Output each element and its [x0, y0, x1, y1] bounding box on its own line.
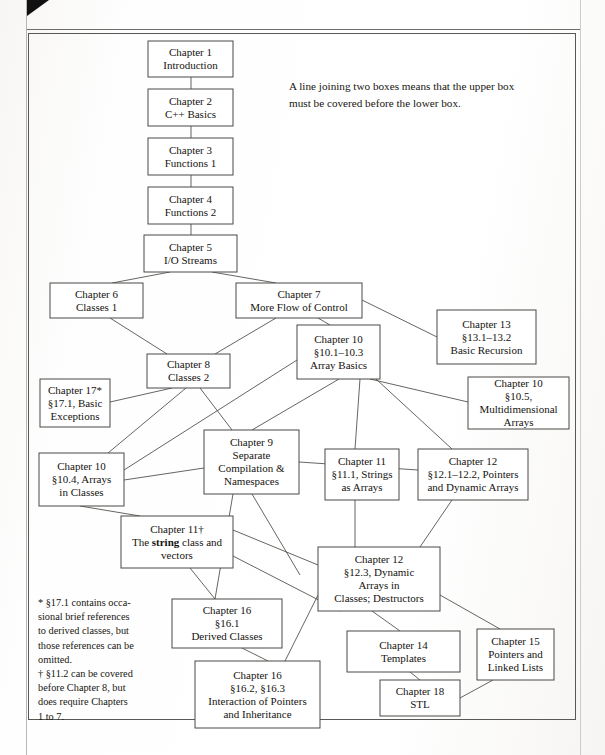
diagram-caption: A line joining two boxes means that the … — [289, 78, 537, 112]
dependency-edge — [124, 468, 204, 480]
dependency-edge — [252, 379, 339, 430]
chapter-box-label: Chapter 14Templates — [379, 639, 428, 664]
dependency-edge — [233, 530, 318, 565]
chapter-node-ch1[interactable]: Chapter 1Introduction — [148, 41, 233, 77]
chapter-node-ch16b[interactable]: Chapter 16§16.2, §16.3Interaction of Poi… — [195, 661, 320, 728]
chapter-node-ch17[interactable]: Chapter 17*§17.1, BasicExceptions — [40, 379, 110, 427]
chapter-node-ch12b[interactable]: Chapter 12§12.3, DynamicArrays inClasses… — [318, 547, 440, 611]
footnote-line-5: omitted. — [38, 653, 166, 667]
chapter-node-ch3[interactable]: Chapter 3Functions 1 — [148, 138, 233, 175]
dependency-edge — [80, 506, 140, 516]
page-canvas: Chapter 1IntroductionChapter 2C++ Basics… — [0, 0, 605, 755]
chapter-node-ch10a[interactable]: Chapter 10§10.1–10.3Array Basics — [297, 325, 380, 379]
dependency-edge — [215, 318, 276, 354]
footnote-line-7: before Chapter 8, but — [38, 681, 166, 695]
dependency-edge — [440, 595, 500, 629]
chapter-node-ch11b[interactable]: Chapter 11†The string class andvectors — [121, 516, 233, 568]
footnote-line-9: 1 to 7. — [38, 710, 166, 724]
dependency-edge — [212, 272, 276, 283]
dependency-edge — [370, 379, 468, 402]
chapter-node-ch4[interactable]: Chapter 4Functions 2 — [148, 187, 233, 224]
dependency-edge — [410, 672, 420, 680]
footnote-line-2: sional brief references — [38, 610, 166, 624]
chapter-node-ch2[interactable]: Chapter 2C++ Basics — [148, 89, 233, 126]
dependency-edge — [318, 318, 330, 325]
dependency-edge — [252, 494, 300, 575]
chapter-box-label: Chapter 17*§17.1, BasicExceptions — [48, 384, 103, 422]
dependency-edge — [190, 568, 215, 599]
chapter-box-label: Chapter 4Functions 2 — [165, 193, 217, 218]
chapter-node-ch18[interactable]: Chapter 18STL — [380, 680, 460, 716]
chapter-node-ch11a[interactable]: Chapter 11§11.1, Stringsas Arrays — [325, 449, 399, 500]
dependency-edge — [242, 648, 268, 661]
chapter-box-label: Chapter 10§10.4, Arraysin Classes — [52, 460, 112, 498]
chapter-node-ch16a[interactable]: Chapter 16§16.1Derived Classes — [172, 599, 282, 648]
footnote-line-1: * §17.1 contains occa- — [38, 596, 166, 610]
chapter-node-ch12a[interactable]: Chapter 12§12.1–12.2, Pointersand Dynami… — [418, 449, 528, 500]
chapter-node-ch9[interactable]: Chapter 9SeparateCompilation &Namespaces — [204, 430, 299, 494]
chapter-box-label: Chapter 2C++ Basics — [165, 95, 216, 120]
dependency-edge — [460, 680, 493, 698]
dependency-edge — [108, 388, 186, 453]
chapter-box-label: Chapter 5I/O Streams — [164, 241, 217, 266]
dependency-edge — [110, 318, 167, 354]
diagram-footnotes: * §17.1 contains occa- sional brief refe… — [38, 596, 166, 724]
footnote-line-8: does require Chapters — [38, 695, 166, 709]
chapter-box-label: Chapter 1Introduction — [163, 46, 218, 71]
chapter-node-ch6[interactable]: Chapter 6Classes 1 — [50, 283, 143, 318]
chapter-node-ch10b[interactable]: Chapter 10§10.5,MultidimensionalArrays — [468, 377, 569, 429]
dependency-edge — [420, 500, 452, 547]
chapter-node-ch8[interactable]: Chapter 8Classes 2 — [147, 354, 230, 388]
dependency-edge — [285, 595, 318, 661]
chapter-node-ch5[interactable]: Chapter 5I/O Streams — [144, 235, 237, 272]
chapter-node-ch15[interactable]: Chapter 15Pointers andLinked Lists — [477, 629, 554, 680]
footnote-line-6: † §11.2 can be covered — [38, 667, 166, 681]
chapter-box-label: Chapter 6Classes 1 — [75, 288, 119, 313]
chapter-node-ch7[interactable]: Chapter 7More Flow of Control — [236, 283, 362, 318]
chapter-box-label: Chapter 8Classes 2 — [167, 358, 211, 383]
dependency-edge — [200, 388, 232, 430]
dependency-edge — [355, 379, 360, 449]
dependency-edge — [372, 611, 400, 631]
dependency-edge — [110, 388, 172, 402]
chapter-node-ch14[interactable]: Chapter 14Templates — [347, 631, 460, 672]
chapter-box-label: Chapter 15Pointers andLinked Lists — [488, 635, 543, 673]
chapter-box-label: Chapter 3Functions 1 — [165, 144, 217, 169]
dependency-edge — [112, 272, 170, 283]
chapter-node-ch13[interactable]: Chapter 13§13.1–13.2Basic Recursion — [437, 310, 536, 364]
chapter-box-label: Chapter 10§10.1–10.3Array Basics — [310, 333, 367, 371]
chapter-node-ch10c[interactable]: Chapter 10§10.4, Arraysin Classes — [39, 453, 124, 506]
footnote-line-4: those references can be — [38, 639, 166, 653]
footnote-line-3: to derived classes, but — [38, 624, 166, 638]
